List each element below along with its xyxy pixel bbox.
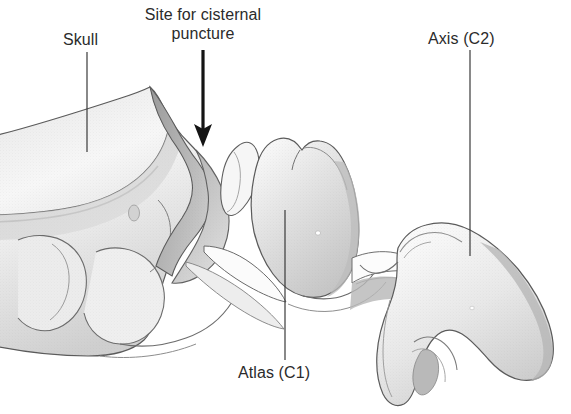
cisternal-puncture-arrow-icon [194,50,212,147]
label-site-line-1: Site for cisternal [133,5,273,24]
label-axis-c2: Axis (C2) [428,29,495,48]
bone-group [0,50,553,406]
label-skull: Skull [63,30,98,49]
label-atlas-c1: Atlas (C1) [238,363,310,382]
illustration-canvas: Skull Site for cisternal puncture Axis (… [0,0,571,414]
axis-vertebra-c2 [360,223,553,406]
label-site-line-2: puncture [133,24,273,43]
label-site-for-cisternal-puncture: Site for cisternal puncture [133,5,273,43]
anatomy-artwork [0,0,571,414]
